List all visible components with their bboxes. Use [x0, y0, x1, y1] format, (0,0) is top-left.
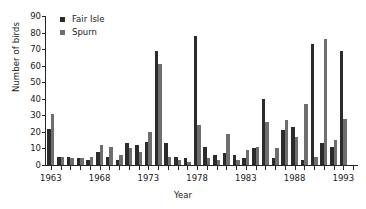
y-tick-mark [42, 148, 46, 149]
legend-item-spurn: Spurn [60, 27, 104, 38]
legend-label-fair-isle: Fair Isle [72, 14, 104, 25]
x-tick-label: 1963 [40, 173, 62, 183]
bar [90, 157, 94, 165]
y-tick-mark [42, 99, 46, 100]
bar [343, 119, 347, 165]
x-tick-mark [334, 166, 335, 170]
bar [168, 157, 172, 165]
bar [295, 137, 299, 165]
x-tick-mark [226, 166, 227, 170]
x-tick-mark [187, 166, 188, 170]
x-tick-mark [256, 166, 257, 170]
y-tick-mark [42, 16, 46, 17]
x-tick-mark [168, 166, 169, 170]
bar [100, 145, 104, 165]
x-tick-mark [353, 166, 354, 170]
bar [226, 134, 230, 165]
bar [187, 162, 191, 165]
bar [70, 158, 74, 165]
bar [314, 157, 318, 165]
bar [51, 114, 55, 165]
bar [119, 155, 123, 165]
x-tick-mark [207, 166, 208, 170]
x-tick-mark [285, 166, 286, 170]
x-tick-mark [61, 166, 62, 170]
x-tick-mark [217, 166, 218, 170]
x-tick-mark [295, 166, 296, 170]
x-tick-label: 1993 [333, 173, 355, 183]
legend-label-spurn: Spurn [72, 27, 97, 38]
x-tick-mark [304, 166, 305, 170]
x-tick-mark [178, 166, 179, 170]
x-tick-mark [343, 166, 344, 170]
y-tick-mark [42, 49, 46, 50]
x-tick-mark [158, 166, 159, 170]
bar [61, 157, 65, 165]
bar [285, 120, 289, 165]
x-axis-label: Year [0, 190, 366, 200]
x-tick-mark [109, 166, 110, 170]
legend-swatch-fair-isle [60, 17, 65, 22]
x-tick-label: 1978 [186, 173, 208, 183]
x-tick-mark [70, 166, 71, 170]
x-tick-mark [275, 166, 276, 170]
x-tick-mark [246, 166, 247, 170]
bar [80, 158, 84, 165]
x-tick-mark [51, 166, 52, 170]
bar [275, 148, 279, 165]
bar-chart: Number of birds Year 0102030405060708090… [0, 0, 366, 209]
y-tick-mark [42, 66, 46, 67]
bar [236, 160, 240, 165]
bar [324, 39, 328, 165]
bar [311, 44, 315, 165]
bar [129, 148, 133, 165]
y-tick-mark [42, 115, 46, 116]
x-tick-mark [119, 166, 120, 170]
x-tick-mark [80, 166, 81, 170]
bar [178, 160, 182, 165]
bar [217, 160, 221, 165]
x-tick-mark [129, 166, 130, 170]
legend-item-fair-isle: Fair Isle [60, 14, 104, 25]
x-tick-mark [314, 166, 315, 170]
bar [265, 122, 269, 165]
y-tick-mark [42, 33, 46, 34]
x-tick-label: 1968 [89, 173, 111, 183]
chart-legend: Fair Isle Spurn [60, 14, 104, 40]
bar [334, 140, 338, 165]
bar [109, 147, 113, 165]
x-tick-label: 1983 [235, 173, 257, 183]
bar [304, 104, 308, 165]
x-tick-mark [90, 166, 91, 170]
bar [158, 64, 162, 165]
x-tick-mark [148, 166, 149, 170]
x-tick-mark [324, 166, 325, 170]
x-tick-mark [265, 166, 266, 170]
legend-swatch-spurn [60, 30, 65, 35]
x-tick-mark [197, 166, 198, 170]
bar [148, 132, 152, 165]
bar [246, 150, 250, 165]
bar [207, 158, 211, 165]
x-tick-label: 1988 [284, 173, 306, 183]
bar [256, 147, 260, 165]
x-tick-mark [100, 166, 101, 170]
x-tick-mark [236, 166, 237, 170]
y-tick-mark [42, 82, 46, 83]
x-axis-line [45, 165, 358, 166]
bar [139, 152, 143, 165]
x-tick-label: 1973 [138, 173, 160, 183]
bar [197, 125, 201, 165]
y-tick-mark [42, 132, 46, 133]
y-axis-label: Number of birds [11, 0, 21, 117]
y-tick-mark [42, 165, 46, 166]
x-tick-mark [139, 166, 140, 170]
